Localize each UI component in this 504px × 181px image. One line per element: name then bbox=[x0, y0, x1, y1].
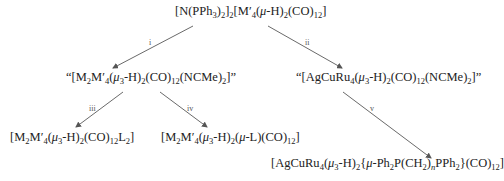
product-iii-compound: [M2M′4(μ3-H)2(CO)12L2] bbox=[10, 130, 134, 144]
arrow-i bbox=[113, 26, 193, 68]
start-compound: [N(PPh3)2]2[M′4(μ-H)2(CO)12] bbox=[175, 4, 326, 18]
arrow-label-iii: iii bbox=[89, 104, 96, 113]
arrow-iv bbox=[160, 92, 207, 127]
product-iv-compound: [M2M′4(μ3-H)2(μ-L)(CO)12] bbox=[161, 130, 300, 144]
arrow-label-i: i bbox=[149, 38, 151, 47]
intermediate-left-compound: “[M2M′4(μ3-H)2(CO)12(NCMe)2]” bbox=[66, 70, 236, 84]
arrow-iii bbox=[76, 92, 123, 127]
arrow-v bbox=[343, 92, 431, 158]
intermediate-right-compound: “[AgCuRu4(μ3-H)2(CO)12(NCMe)2]” bbox=[296, 70, 481, 84]
arrow-label-ii: ii bbox=[305, 38, 309, 47]
arrow-ii bbox=[268, 26, 342, 68]
arrow-label-iv: iv bbox=[187, 104, 193, 113]
arrow-label-v: v bbox=[370, 104, 374, 113]
product-v-compound: [AgCuRu4(μ3-H)2{μ-Ph2P(CH2)nPPh2}(CO)12] bbox=[271, 156, 504, 170]
